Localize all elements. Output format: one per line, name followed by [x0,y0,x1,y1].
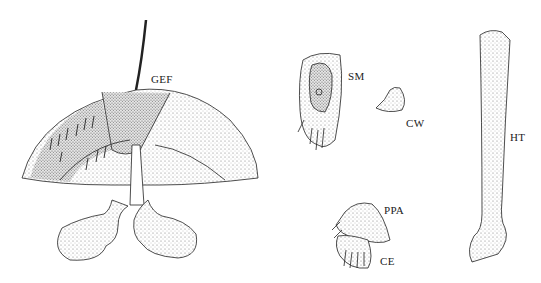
label-sm: SM [348,70,365,82]
label-cw: CW [406,117,424,129]
cw-structure [376,87,405,111]
figure: GEF SM CW HT PPA CE [0,0,541,283]
illustration [0,0,541,283]
ht-structure [469,31,510,262]
sm-structure [298,53,342,150]
gef-structure [22,20,258,260]
label-gef: GEF [151,73,173,85]
label-ppa: PPA [384,204,404,216]
label-ht: HT [510,131,525,143]
label-ce: CE [380,255,395,267]
